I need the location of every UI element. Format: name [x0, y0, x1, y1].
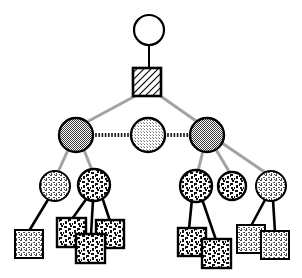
level2-layer: [59, 118, 224, 152]
leaf-square-1[interactable]: [15, 230, 43, 258]
root-hatched-square-node[interactable]: [133, 68, 161, 96]
edge-l3e-to-leaf8: [273, 200, 275, 232]
edge-mid-left-to-l3b: [84, 150, 92, 170]
edge-mid-right-to-l3c: [198, 151, 203, 171]
edge-l3e-to-leaf7: [251, 198, 266, 226]
level2-circle-left[interactable]: [59, 118, 93, 152]
edge-mid-left-to-l3a: [58, 150, 68, 172]
edge-square-to-mid-left: [85, 95, 137, 123]
diagram-canvas: [0, 0, 302, 278]
level3-circle-3[interactable]: [180, 170, 212, 202]
root-circle-node[interactable]: [134, 15, 164, 45]
leaf-square-8[interactable]: [261, 231, 289, 259]
leaf-layer: [15, 218, 289, 268]
leaf-square-4[interactable]: [76, 234, 105, 263]
level3-circle-4[interactable]: [218, 172, 246, 200]
edge-l3b-to-leaf4: [91, 200, 93, 235]
edge-l3c-to-leaf5: [189, 199, 192, 229]
level3-layer: [40, 169, 286, 202]
edge-l3b-to-leaf3: [102, 197, 110, 221]
tree-diagram-svg: [0, 0, 302, 278]
level2-circle-right[interactable]: [190, 118, 224, 152]
level3-circle-2[interactable]: [78, 169, 110, 201]
level3-circle-5[interactable]: [256, 171, 286, 201]
edge-mid-right-to-l3d: [215, 148, 230, 173]
edge-square-to-mid-right: [159, 95, 199, 123]
level2-circle-center[interactable]: [131, 118, 165, 152]
edge-l3b-to-leaf2: [72, 198, 87, 219]
edge-l3a-to-leaf1: [29, 198, 49, 231]
level3-circle-1[interactable]: [40, 171, 70, 201]
leaf-square-6[interactable]: [202, 239, 231, 268]
